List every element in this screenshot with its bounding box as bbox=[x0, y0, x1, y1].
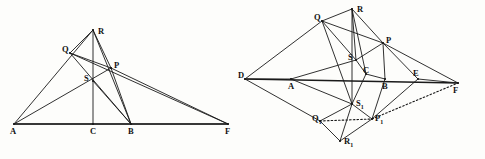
segment-P-F bbox=[383, 43, 458, 83]
vertex-dot-f bbox=[457, 82, 459, 84]
segment-Q-F bbox=[70, 53, 228, 124]
vertex-label-q: Q bbox=[62, 45, 69, 54]
vertex-label-b: B bbox=[382, 82, 388, 91]
segment-A-P bbox=[14, 68, 111, 124]
vertex-label-q1: Q1 bbox=[312, 114, 322, 125]
segment-R-Q bbox=[70, 30, 93, 53]
segment-A-S bbox=[291, 60, 356, 79]
vertex-label-q: Q bbox=[314, 13, 321, 22]
vertex-label-d: D bbox=[238, 71, 244, 80]
vertex-label-c: C bbox=[363, 66, 369, 75]
segment-Q1-R1 bbox=[320, 121, 340, 141]
vertex-label-c: C bbox=[90, 127, 96, 136]
vertex-label-a: A bbox=[10, 127, 16, 136]
figure-root: ACBFRQPSDACBEFRQPSS1Q1P1R1 bbox=[0, 0, 485, 159]
vertex-dot-p bbox=[110, 67, 112, 69]
vertex-dot-b bbox=[384, 78, 386, 80]
vertex-label-r1: R1 bbox=[344, 137, 353, 148]
vertex-label-b: B bbox=[128, 127, 134, 136]
segment-R-B bbox=[93, 30, 131, 124]
vertex-label-s: S bbox=[84, 74, 89, 83]
right-panel-lines bbox=[245, 9, 458, 141]
vertex-label-r: R bbox=[357, 5, 363, 14]
segment-S-B bbox=[93, 81, 131, 124]
vertex-dot-p1 bbox=[371, 118, 373, 120]
segment-D-Q1 bbox=[245, 79, 320, 121]
dotted-segment-Q1-P1 bbox=[320, 119, 372, 121]
segment-Q-R bbox=[322, 9, 352, 21]
vertex-label-r: R bbox=[98, 27, 104, 36]
segment-R-P bbox=[352, 9, 383, 43]
vertex-dot-s bbox=[355, 59, 357, 61]
vertex-label-p: P bbox=[114, 61, 119, 70]
vertex-label-s1: S1 bbox=[356, 99, 364, 110]
vertex-dot-r bbox=[351, 8, 353, 10]
segment-P-B bbox=[383, 43, 385, 79]
vertex-dots bbox=[13, 8, 459, 142]
vertex-label-s: S bbox=[348, 53, 353, 62]
vertex-dot-f bbox=[227, 123, 229, 125]
vertex-label-p: P bbox=[386, 36, 391, 45]
vertex-label-f: F bbox=[225, 127, 230, 136]
vertex-dot-c bbox=[92, 123, 94, 125]
segment-A-S1 bbox=[291, 79, 352, 104]
vertex-dot-s bbox=[92, 80, 94, 82]
vertex-dot-q bbox=[69, 52, 71, 54]
right-panel-dotted-lines bbox=[320, 83, 458, 121]
vertex-label-e: E bbox=[413, 69, 419, 78]
vertex-dot-b bbox=[130, 123, 132, 125]
vertex-dot-r1 bbox=[339, 140, 341, 142]
segment-D-Q bbox=[245, 21, 322, 79]
vertex-dot-a bbox=[13, 123, 15, 125]
vertex-dot-p bbox=[382, 42, 384, 44]
vertex-dot-a bbox=[290, 78, 292, 80]
segment-P-F bbox=[111, 68, 228, 124]
vertex-label-p1: P1 bbox=[375, 114, 383, 125]
vertex-label-f: F bbox=[453, 86, 458, 95]
vertex-dot-r bbox=[92, 29, 94, 31]
vertex-dot-e bbox=[417, 78, 419, 80]
vertex-dot-q bbox=[321, 20, 323, 22]
vertex-dot-s1 bbox=[351, 103, 353, 105]
vertex-dot-d bbox=[244, 78, 246, 80]
segment-A-R bbox=[14, 30, 93, 124]
left-panel-lines bbox=[14, 30, 228, 124]
vertex-label-a: A bbox=[288, 82, 294, 91]
